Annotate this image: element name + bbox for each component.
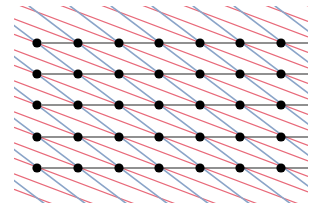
lattice-dot [73, 69, 82, 78]
lattice-dot [32, 100, 41, 109]
lattice-dot [276, 38, 285, 47]
lattice-dot [276, 163, 285, 172]
lattice-dot [73, 100, 82, 109]
lattice-dot [195, 69, 204, 78]
lattice-dot [195, 38, 204, 47]
lattice-dot [195, 100, 204, 109]
lattice-dot [276, 69, 285, 78]
lattice-dot [276, 132, 285, 141]
lattice-dot [114, 69, 123, 78]
red-line [14, 174, 308, 211]
lattice-dot [235, 38, 244, 47]
lattice-dot [73, 38, 82, 47]
lattice-dot [114, 132, 123, 141]
lattice-dot [235, 69, 244, 78]
lattice-dot [195, 132, 204, 141]
lattice-dot [114, 163, 123, 172]
lattice-dot [32, 38, 41, 47]
lattice-dot [154, 100, 163, 109]
lattice-dot [73, 163, 82, 172]
red-line [14, 205, 308, 211]
lattice-diagram [0, 0, 316, 211]
lattice-dot [73, 132, 82, 141]
lattice-dot [32, 69, 41, 78]
red-line [14, 0, 308, 68]
red-line [14, 0, 308, 99]
lattice-dot [114, 100, 123, 109]
red-line [14, 112, 308, 211]
lattice-dot [114, 38, 123, 47]
lattice-dot [154, 163, 163, 172]
lattice-dot [235, 132, 244, 141]
lattice-dot [154, 38, 163, 47]
lattice-dot [154, 132, 163, 141]
lattice-dot [154, 69, 163, 78]
lattice-dot [235, 100, 244, 109]
lattice-dot [235, 163, 244, 172]
lattice-dot [195, 163, 204, 172]
lattice-dot [32, 132, 41, 141]
red-line [14, 0, 308, 37]
red-line [14, 0, 308, 6]
red-line [14, 0, 308, 21]
lattice-dot [276, 100, 285, 109]
red-line [14, 189, 308, 211]
lattice-dot [32, 163, 41, 172]
